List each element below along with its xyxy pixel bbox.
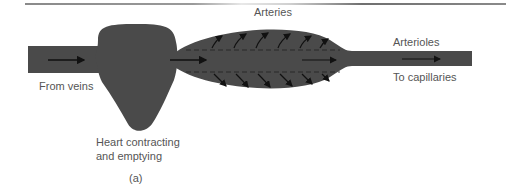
label-arteries: Arteries — [254, 6, 292, 19]
label-arterioles: Arterioles — [393, 36, 439, 49]
label-from-veins: From veins — [39, 80, 93, 93]
heart-shape — [95, 24, 180, 131]
label-to-capillaries: To capillaries — [393, 71, 457, 84]
figure-caption: (a) — [129, 172, 142, 184]
label-heart-line1: Heart contracting — [96, 136, 180, 149]
circulation-diagram — [0, 0, 506, 191]
label-heart-line2: and emptying — [96, 150, 162, 163]
